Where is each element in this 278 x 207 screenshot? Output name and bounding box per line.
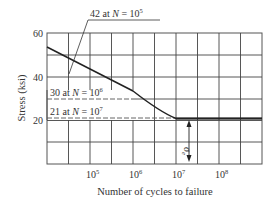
y-tick-20: 20 <box>33 115 43 126</box>
x-axis-label: Number of cycles to failure <box>97 186 213 197</box>
x-tick-1e8: 108 <box>215 168 228 180</box>
endurance-arrow: σe <box>181 120 193 162</box>
y-axis-label: Stress (ksi) <box>16 74 28 121</box>
sigma-e-label: σe <box>181 147 193 155</box>
annotation-30: 30 at N = 106 <box>50 86 104 98</box>
y-tick-40: 40 <box>33 72 43 83</box>
x-tick-1e5: 105 <box>86 168 99 180</box>
sn-chart: σe 42 at N = 105 30 at N = 106 21 at N =… <box>0 0 278 207</box>
x-tick-1e6: 106 <box>129 168 143 180</box>
annotation-21: 21 at N = 107 <box>50 105 104 117</box>
annotation-42: 42 at N = 105 <box>90 7 143 19</box>
x-tick-1e7: 107 <box>172 168 186 180</box>
y-tick-60: 60 <box>33 28 43 39</box>
